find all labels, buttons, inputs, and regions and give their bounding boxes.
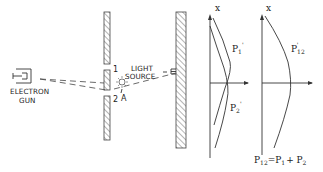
light-source-label-line2: SOURCE (125, 72, 156, 81)
detector-wall (176, 12, 186, 148)
slit-1-label: 1 (113, 65, 118, 74)
p12-curve (265, 16, 291, 148)
point-a-pointer (121, 89, 122, 93)
graph-1 (208, 14, 249, 158)
slit-2-label: 2 (113, 95, 118, 104)
p12-label: P12' (291, 41, 305, 55)
electron-gun-icon (13, 69, 31, 83)
graph-2 (260, 14, 313, 155)
sum-equation: P12=P1+ P2 (254, 155, 307, 166)
graph1-axis-label: x (215, 3, 220, 13)
p1-label: P1' (232, 41, 244, 55)
graph2-axis-label: x (266, 3, 271, 13)
double-slit-diagram: ELECTRON GUN 1 2 LIGHT SOURCE A (0, 0, 323, 172)
p1-curve (213, 18, 230, 125)
electron-gun-label-line1: ELECTRON (10, 87, 49, 96)
slit-wall (104, 12, 110, 140)
point-a-label: A (121, 94, 127, 103)
electron-gun-label-line2: GUN (19, 96, 36, 105)
p2-label: P2' (230, 100, 242, 114)
